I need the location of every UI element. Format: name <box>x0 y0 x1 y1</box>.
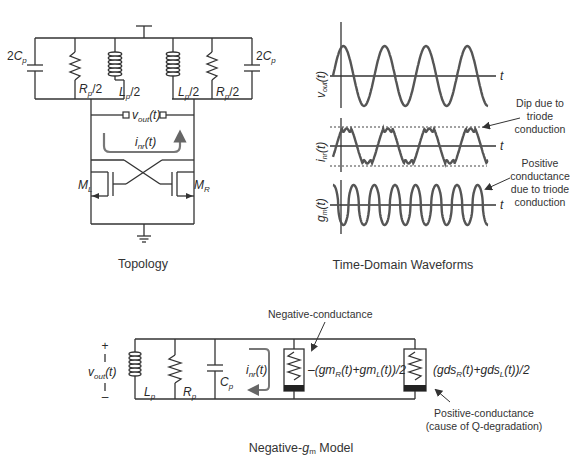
vout-terminal-left <box>123 112 129 118</box>
ind-left-label: Lp/2 <box>119 85 140 101</box>
capacitor-left-icon <box>27 38 43 99</box>
waveforms-caption: Time-Domain Waveforms <box>333 258 474 272</box>
gm-plot: t gm(t) <box>314 180 504 234</box>
model-vout-label: vout(t) <box>88 365 116 381</box>
minus-sign: – <box>102 390 109 404</box>
negative-conductance-label: Negative-conductance <box>268 308 373 320</box>
dip-annotation: Dip due to triode conduction <box>484 97 566 135</box>
ml-label: ML <box>78 178 92 194</box>
negative-conductance-expr: –(gmR(t)+gmL(t))/2 <box>307 363 406 379</box>
cap-right-label: 2Cp <box>256 49 276 65</box>
capacitor-cp-icon <box>207 339 223 399</box>
model-caption: Negative-gm Model <box>249 441 354 456</box>
vout-plot: t vout(t) <box>314 22 504 108</box>
inr-plot: t inr(t) <box>314 118 504 172</box>
plus-sign: + <box>101 339 108 353</box>
lp-label: Lp <box>144 385 156 401</box>
cp-label: Cp <box>220 375 234 391</box>
transistor-left-icon <box>91 172 113 224</box>
positive-conductance-label: Positive-conductance <box>434 407 534 419</box>
svg-text:Positive: Positive <box>522 157 559 169</box>
positive-conductance-element-icon <box>404 339 426 399</box>
inr-label: inr(t) <box>135 135 156 151</box>
transistor-right-icon <box>172 172 194 224</box>
svg-text:triode: triode <box>527 110 553 122</box>
negative-conductance-element-icon <box>284 339 304 399</box>
svg-text:Dip due to: Dip due to <box>516 97 564 109</box>
ind-right-label: Lp/2 <box>178 85 199 101</box>
topology-caption: Topology <box>118 257 169 271</box>
vout-label: vout(t) <box>132 108 160 124</box>
model-inr-label: inr(t) <box>246 363 267 379</box>
positive-annotation: Positive conductance due to triode condu… <box>486 157 570 208</box>
vout-axis-label: vout(t) <box>314 71 328 98</box>
res-right-label: Rp/2 <box>216 85 239 101</box>
q-degradation-note: (cause of Q-degradation) <box>426 420 543 432</box>
inr-axis-label: inr(t) <box>314 142 328 162</box>
svg-text:due to triode: due to triode <box>511 183 570 195</box>
gm-axis-label: gm(t) <box>314 198 328 222</box>
svg-text:t: t <box>500 69 504 83</box>
svg-text:conduction: conduction <box>515 123 566 135</box>
inductor-lp-icon <box>129 339 141 399</box>
res-left-label: Rp/2 <box>79 82 102 98</box>
topology-schematic: 2Cp 2Cp Rp/2 Lp/2 Lp/2 Rp/2 vout(t) inr(… <box>7 26 276 271</box>
svg-text:t: t <box>500 198 504 212</box>
capacitor-right-icon <box>244 38 260 99</box>
waveforms-panel: t vout(t) t inr(t) t gm(t) Dip due to tr… <box>314 22 570 272</box>
resistor-rp-icon <box>169 339 181 399</box>
svg-text:conductance: conductance <box>510 170 570 182</box>
cap-left-label: 2Cp <box>7 49 27 65</box>
mr-label: MR <box>194 178 210 194</box>
svg-text:t: t <box>500 139 504 153</box>
vout-terminal-right <box>160 112 166 118</box>
vdd-supply-icon <box>136 26 152 38</box>
rp-label: Rp <box>183 385 197 401</box>
positive-conductance-expr: (gdsR(t)+gdsL(t))/2 <box>433 363 530 379</box>
negative-gm-model: + vout(t) – Lp Rp Cp inr(t) Negative-con… <box>88 308 542 456</box>
diagram-canvas: 2Cp 2Cp Rp/2 Lp/2 Lp/2 Rp/2 vout(t) inr(… <box>0 0 587 469</box>
ground-icon <box>137 236 151 242</box>
svg-text:conduction: conduction <box>515 196 566 208</box>
